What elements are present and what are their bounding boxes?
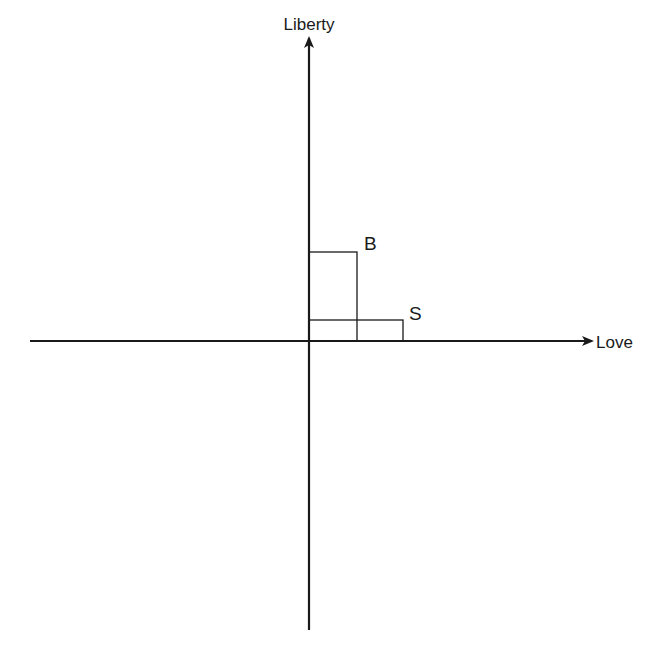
love-liberty-diagram: Liberty Love B S [0,0,658,659]
liberty-axis-label: Liberty [283,15,335,34]
point-b-label: B [364,233,377,254]
point-s-box [309,320,403,341]
point-s-label: S [409,303,422,324]
love-axis-label: Love [596,333,633,352]
point-b-box [309,252,357,341]
